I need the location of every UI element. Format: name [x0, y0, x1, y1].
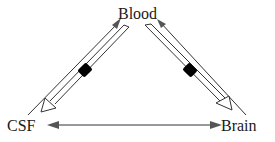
left-barrier-block: [77, 62, 93, 78]
csf-to-blood-arrow: [28, 18, 121, 115]
node-label-blood: Blood: [118, 6, 157, 22]
csf-brain-double-arrow: [47, 121, 222, 129]
node-label-csf: CSF: [7, 118, 35, 134]
transport-diagram: Blood CSF Brain: [0, 0, 275, 142]
brain-to-blood-arrow: [157, 19, 246, 115]
node-label-brain: Brain: [221, 118, 257, 134]
